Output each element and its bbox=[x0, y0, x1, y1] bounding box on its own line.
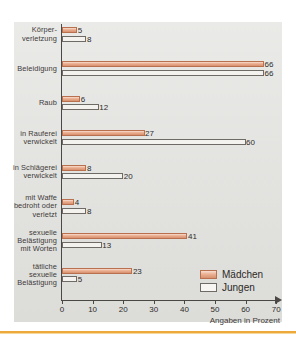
bar-boys: 12 bbox=[62, 104, 99, 110]
category-label: sexuelleBelästigungmit Worten bbox=[0, 229, 57, 254]
bar-value-label: 41 bbox=[188, 232, 197, 241]
bar-value-label: 13 bbox=[102, 240, 111, 249]
category-label-line: Beleidigung bbox=[0, 65, 57, 73]
category-label: in Schlägereiverwickelt bbox=[0, 164, 57, 180]
x-axis-tick-label: 30 bbox=[149, 305, 158, 314]
x-axis-tick-label: 10 bbox=[88, 305, 97, 314]
bar-value-label: 5 bbox=[78, 26, 82, 35]
bar-value-label: 23 bbox=[133, 266, 142, 275]
bar-boys: 13 bbox=[62, 242, 102, 248]
bar-girls: 6 bbox=[62, 96, 80, 102]
bar-girls: 8 bbox=[62, 165, 86, 171]
x-axis-tick-label: 50 bbox=[211, 305, 220, 314]
bar-value-label: 20 bbox=[124, 172, 133, 181]
x-axis-tick bbox=[62, 300, 63, 304]
bar-boys: 60 bbox=[62, 139, 246, 145]
legend-item-girls: Mädchen bbox=[200, 268, 263, 280]
x-axis-tick bbox=[123, 300, 124, 304]
bar-group: 58 bbox=[62, 27, 86, 42]
bar-value-label: 27 bbox=[145, 129, 154, 138]
bar-group: 6666 bbox=[62, 61, 264, 76]
bar-boys: 5 bbox=[62, 276, 77, 282]
bar-value-label: 5 bbox=[78, 275, 82, 284]
bar-group: 235 bbox=[62, 268, 132, 283]
legend-item-boys: Jungen bbox=[200, 281, 263, 293]
x-axis-tick-label: 20 bbox=[119, 305, 128, 314]
bar-girls: 66 bbox=[62, 61, 264, 67]
category-label-line: Belästigung bbox=[0, 279, 57, 287]
x-axis-tick bbox=[246, 300, 247, 304]
bar-group: 2760 bbox=[62, 130, 246, 145]
bar-boys: 8 bbox=[62, 208, 86, 214]
x-axis-tick-label: 0 bbox=[60, 305, 64, 314]
category-label: Raub bbox=[0, 99, 57, 107]
bar-value-label: 66 bbox=[264, 68, 273, 77]
bar-value-label: 60 bbox=[246, 137, 255, 146]
bar-group: 48 bbox=[62, 199, 86, 214]
bar-group: 4113 bbox=[62, 233, 187, 248]
bar-girls: 27 bbox=[62, 130, 145, 136]
bar-group: 820 bbox=[62, 165, 123, 180]
bar-boys: 66 bbox=[62, 70, 264, 76]
bar-boys: 8 bbox=[62, 36, 86, 42]
bar-group: 612 bbox=[62, 96, 99, 111]
bar-girls: 41 bbox=[62, 233, 187, 239]
chart-page: Körper-verletzung58Beleidigung6666Raub61… bbox=[0, 0, 296, 347]
bar-value-label: 8 bbox=[87, 163, 91, 172]
category-label-line: mit Worten bbox=[0, 245, 57, 253]
bar-value-label: 4 bbox=[75, 198, 79, 207]
category-label: Beleidigung bbox=[0, 65, 57, 73]
x-axis-tick bbox=[215, 300, 216, 304]
bar-girls: 4 bbox=[62, 199, 74, 205]
category-label: Körper-verletzung bbox=[0, 26, 57, 42]
y-axis-line bbox=[61, 24, 62, 301]
x-axis-tick bbox=[184, 300, 185, 304]
bar-girls: 5 bbox=[62, 27, 77, 33]
category-label: mit Waffebedroht oderverletzt bbox=[0, 194, 57, 219]
chart-legend: Mädchen Jungen bbox=[200, 268, 263, 294]
category-label: in Raufereiverwickelt bbox=[0, 130, 57, 146]
bar-value-label: 6 bbox=[81, 94, 85, 103]
bar-girls: 23 bbox=[62, 268, 132, 274]
legend-label-girls: Mädchen bbox=[222, 269, 263, 280]
category-label-line: verletzt bbox=[0, 211, 57, 219]
bar-value-label: 8 bbox=[87, 34, 91, 43]
x-axis-tick bbox=[276, 300, 277, 304]
category-label-line: verwickelt bbox=[0, 172, 57, 180]
x-axis-tick-label: 60 bbox=[241, 305, 250, 314]
bar-boys: 20 bbox=[62, 173, 123, 179]
bar-chart: Körper-verletzung58Beleidigung6666Raub61… bbox=[0, 0, 296, 347]
bar-value-label: 12 bbox=[99, 103, 108, 112]
x-axis-tick-label: 40 bbox=[180, 305, 189, 314]
x-axis-tick bbox=[93, 300, 94, 304]
bottom-rule-soft bbox=[0, 333, 296, 334]
legend-swatch-girls bbox=[200, 270, 217, 279]
category-label-line: verletzung bbox=[0, 35, 57, 43]
bar-value-label: 8 bbox=[87, 206, 91, 215]
legend-label-boys: Jungen bbox=[222, 282, 255, 293]
x-axis-caption: Angaben in Prozent bbox=[210, 316, 280, 325]
x-axis-tick-label: 70 bbox=[272, 305, 281, 314]
legend-swatch-boys bbox=[200, 283, 217, 292]
category-label-line: verwickelt bbox=[0, 138, 57, 146]
category-label-line: Raub bbox=[0, 99, 57, 107]
x-axis-tick bbox=[154, 300, 155, 304]
category-label: tätlichesexuelleBelästigung bbox=[0, 263, 57, 288]
